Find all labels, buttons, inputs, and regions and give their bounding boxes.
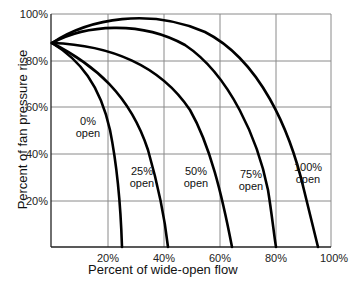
curve-label-75-pct: 75%: [231, 168, 271, 180]
curve-label-75: 75% open: [231, 168, 271, 192]
x-axis-label: Percent of wide-open flow: [88, 262, 238, 277]
y-axis-label: Percent of fan pressure rise: [15, 50, 30, 210]
curve-label-0-pct: 0%: [68, 115, 108, 127]
x-tick-80: 80%: [256, 252, 296, 264]
curve-0-open: [52, 43, 122, 247]
curve-label-75-open: open: [231, 180, 271, 192]
curve-label-50-pct: 50%: [176, 165, 216, 177]
curve-label-100-open: open: [288, 173, 328, 185]
y-tick-100: 100%: [8, 8, 48, 20]
curve-label-50-open: open: [176, 177, 216, 189]
curve-25-open: [52, 43, 168, 247]
curve-label-25-pct: 25%: [122, 165, 162, 177]
curve-label-0-open: open: [68, 127, 108, 139]
curve-label-25-open: open: [122, 177, 162, 189]
curve-label-25: 25% open: [122, 165, 162, 189]
curve-label-0: 0% open: [68, 115, 108, 139]
curve-50-open: [52, 43, 232, 247]
chart-plot: [0, 0, 349, 288]
curve-label-100-pct: 100%: [288, 161, 328, 173]
curve-label-100: 100% open: [288, 161, 328, 185]
curve-label-50: 50% open: [176, 165, 216, 189]
x-tick-100: 100%: [314, 252, 349, 264]
